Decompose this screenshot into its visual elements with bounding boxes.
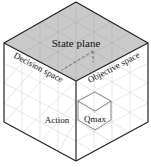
cube-diagram: State plane Decision space Objective spa… (0, 0, 151, 167)
label-qmax: Qmax (84, 114, 106, 124)
label-state-plane: State plane (52, 37, 101, 49)
label-action: Action (45, 115, 70, 125)
